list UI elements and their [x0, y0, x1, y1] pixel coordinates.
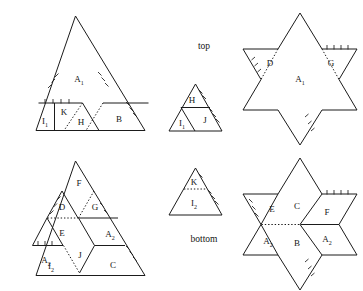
panel-star-bottom: E C F A2 B A2: [243, 158, 357, 290]
piece-label-E: E: [59, 228, 65, 238]
tickmarks-br-e: [249, 199, 259, 217]
piece-label-A2-star-right: A2: [322, 234, 332, 246]
piece-label-G-star: G: [328, 58, 335, 68]
piece-label-I1-small: I1: [179, 118, 185, 130]
piece-label-B-star: B: [294, 238, 300, 248]
piece-label-J-bottom: J: [78, 250, 82, 260]
tickmarks-b-right: [126, 102, 137, 117]
cut-j-i2: [64, 246, 80, 274]
piece-label-G-bottom: G: [92, 202, 99, 212]
edge-j-right: [79, 218, 95, 246]
figure-canvas: A1 I1 K H B top H I1 J: [0, 0, 363, 291]
tickmarks-bl-c-right: [126, 246, 137, 261]
piece-label-F-star: F: [324, 207, 329, 217]
piece-label-F: F: [76, 178, 81, 188]
cut-b-left: [86, 103, 103, 131]
panel-small-triangle-bottom: K I2 bottom: [169, 168, 222, 244]
piece-label-H-small: H: [189, 95, 196, 105]
tickmarks-star-D: [252, 57, 262, 72]
edge-star-c-right: [300, 194, 322, 225]
panel-large-triangle-top: A1 I1 K H B: [36, 16, 149, 131]
edge-star-b-right: [300, 225, 322, 256]
tickmarks-right-slant: [98, 72, 109, 87]
panel-large-triangle-bottom: F D G E A2 J A2 I2 C: [33, 161, 146, 276]
triangle-outline: [36, 16, 145, 131]
caption-top: top: [198, 41, 210, 51]
tickmarks-br-b-bottom: [305, 259, 315, 276]
piece-label-H: H: [78, 117, 85, 127]
piece-label-D-bottom: D: [59, 202, 66, 212]
piece-label-B: B: [116, 114, 122, 124]
piece-label-K-small: K: [191, 177, 198, 187]
piece-label-C: C: [110, 260, 116, 270]
piece-label-D-star: D: [267, 58, 274, 68]
dissection-figure: A1 I1 K H B top H I1 J: [0, 0, 363, 291]
caption-bottom: bottom: [191, 234, 219, 244]
tickmarks-left-slant: [48, 74, 59, 89]
piece-label-A2-right: A2: [105, 229, 115, 241]
piece-label-I2: I2: [48, 261, 54, 273]
piece-label-E-star: E: [269, 204, 275, 214]
piece-label-J-small: J: [203, 115, 207, 125]
piece-label-I1: I1: [42, 116, 48, 128]
piece-label-K: K: [61, 107, 68, 117]
piece-label-I2-small: I2: [191, 198, 197, 210]
piece-label-A1-star: A1: [295, 74, 305, 86]
panel-star-top: D G A1: [243, 13, 357, 145]
piece-label-A1: A1: [74, 74, 84, 86]
panel-small-triangle-top: top H I1 J: [169, 41, 222, 131]
edge-h-right: [83, 103, 100, 131]
tickmarks-star-bottom: [305, 114, 315, 131]
piece-label-A2-star-left: A2: [263, 236, 273, 248]
piece-label-C-star: C: [294, 201, 300, 211]
